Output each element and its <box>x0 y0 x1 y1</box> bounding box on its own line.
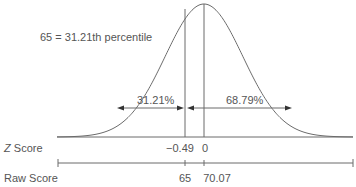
left-arrowhead-right <box>177 106 184 111</box>
right-region-percent: 68.79% <box>226 95 263 106</box>
raw-tick-label-mean: 70.07 <box>203 173 231 184</box>
raw-tick-label-observed: 65 <box>179 173 191 184</box>
right-arrowhead-right <box>285 106 292 111</box>
raw-score-axis-label: Raw Score <box>4 173 58 184</box>
z-score-axis-label: Z Score <box>4 143 43 154</box>
normal-distribution-chart <box>0 0 356 187</box>
z-tick-label-observed: −0.49 <box>166 143 194 154</box>
bell-curve <box>57 4 353 137</box>
z-letter: Z <box>4 142 11 154</box>
left-arrowhead-left <box>117 106 124 111</box>
right-arrowhead-left <box>187 106 194 111</box>
z-score-word: Score <box>11 142 43 154</box>
left-region-percent: 31.21% <box>137 95 174 106</box>
percentile-annotation: 65 = 31.21th percentile <box>40 32 152 43</box>
z-tick-label-mean: 0 <box>202 143 208 154</box>
